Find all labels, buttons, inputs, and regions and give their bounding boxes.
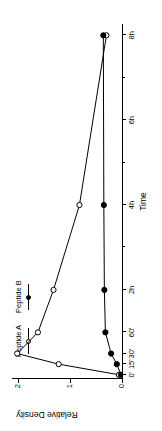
data-point	[102, 287, 107, 292]
y-axis-line	[12, 378, 122, 379]
y-tick-label: 0	[118, 384, 126, 392]
x-tick-label: 15'	[128, 359, 136, 369]
x-tick	[122, 363, 126, 364]
y-tick	[70, 379, 71, 383]
data-point	[101, 202, 106, 207]
data-point	[103, 330, 108, 335]
y-tick-label: 1	[66, 384, 74, 392]
x-tick-label: 8h	[128, 31, 136, 39]
x-tick-label: 60'	[128, 327, 136, 337]
data-point	[101, 33, 106, 38]
x-minor-tick	[122, 246, 125, 247]
x-minor-tick	[122, 162, 125, 163]
data-point	[114, 362, 119, 367]
plot-area: 0'15'30'60'2h4h6h8h 012	[12, 24, 122, 379]
x-tick	[122, 119, 126, 120]
y-tick	[18, 379, 19, 383]
chart-figure: Peptide A Peptide B 0'15'30'60'2h4h6h8h …	[0, 0, 162, 431]
x-minor-tick	[122, 331, 125, 332]
rotated-figure-container: Peptide A Peptide B 0'15'30'60'2h4h6h8h …	[0, 0, 162, 431]
x-tick	[122, 34, 126, 35]
x-tick-label: 2h	[128, 286, 136, 294]
x-tick	[122, 353, 126, 354]
data-point	[77, 202, 82, 207]
data-point	[56, 362, 61, 367]
x-tick-label: 4h	[128, 201, 136, 209]
x-tick-label: 30'	[128, 349, 136, 359]
data-point	[51, 287, 56, 292]
y-tick-label: 2	[14, 384, 22, 392]
x-axis-title: Time	[138, 24, 148, 379]
y-axis-title: Relative Density	[0, 410, 97, 420]
data-point	[35, 330, 40, 335]
x-tick	[122, 289, 126, 290]
x-minor-tick	[122, 77, 125, 78]
data-point	[109, 351, 114, 356]
y-tick	[122, 379, 123, 383]
x-tick-label: 6h	[128, 116, 136, 124]
series-plot	[12, 24, 122, 379]
data-point	[15, 351, 20, 356]
x-tick	[122, 204, 126, 205]
x-tick-label: 0'	[128, 372, 136, 378]
x-tick	[122, 374, 126, 375]
